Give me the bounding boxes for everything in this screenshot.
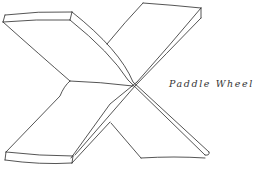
blade-bottom-right-left-edge [111,123,141,158]
beam-a-end-cap [205,152,209,155]
paddle-blade-top-left [3,12,72,81]
blade-bottom-left-right-edge [72,122,110,163]
blade-top-right-front-edge [137,8,201,82]
paddle-blade-bottom-left [5,81,110,164]
blade-bottom-left-front-edge [5,160,72,164]
paddle-blade-bottom-right [111,123,205,158]
figure-caption: Paddle Wheel [169,78,253,89]
blade-top-left-lower-edge [3,22,70,81]
blade-top-left-right-side [70,12,72,20]
blade-top-right-left-edge [107,3,143,44]
blade-top-left-front-edge [3,20,70,22]
blade-bottom-left-upper-edge [6,81,70,152]
center-fold-line [70,81,133,86]
blade-top-left-left-side [3,15,5,22]
blade-top-left-top-edge [5,12,72,15]
blade-top-right-top-edge [143,3,201,8]
blade-bottom-left-top-edge [6,152,73,156]
blade-bottom-right-bottom-edge [141,157,205,158]
beam-b-lower-edge [71,82,137,158]
blade-bottom-left-left-side [5,152,6,160]
